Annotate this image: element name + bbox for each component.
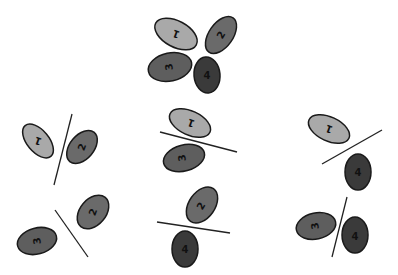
cell-1: 1 — [150, 12, 203, 57]
cell-label: 4 — [355, 167, 362, 178]
cell-2: 2 — [199, 11, 243, 59]
panel-2-3: 3 2 — [14, 189, 115, 259]
panel-1-2: 1 2 — [17, 114, 104, 185]
top-cell-group: 1 2 3 4 — [146, 11, 243, 94]
panel-1-4: 1 4 — [304, 109, 382, 190]
division-line — [157, 222, 230, 233]
panel-3-4: 3 4 — [294, 197, 368, 257]
panel-1-3: 1 3 — [160, 103, 237, 176]
cell-label: 4 — [204, 70, 211, 81]
panel-2-4: 2 4 — [157, 181, 230, 267]
cell-division-diagram: 1 2 3 4 1 2 3 2 1 3 — [0, 0, 398, 275]
cell-3: 3 — [146, 49, 195, 86]
cell-label: 4 — [182, 244, 189, 255]
cell-4: 4 — [192, 56, 221, 94]
cell-label: 4 — [352, 231, 359, 242]
